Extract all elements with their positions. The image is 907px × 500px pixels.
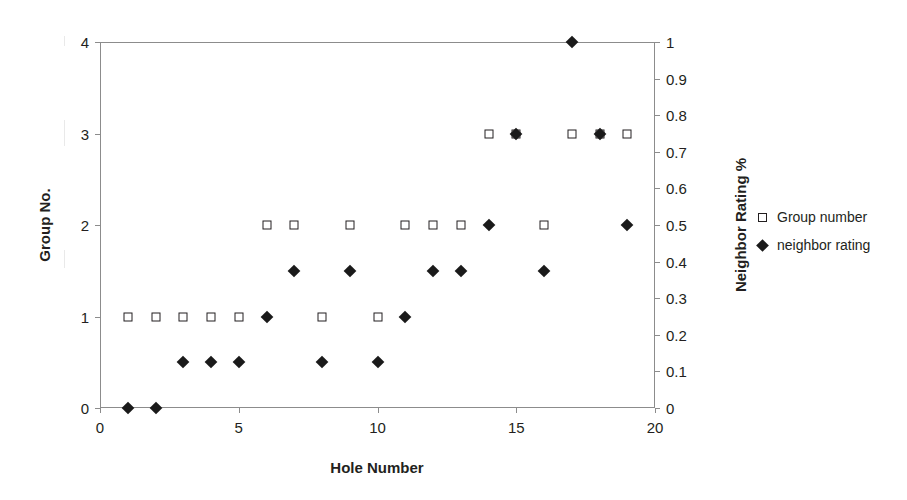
y-axis-right-tick-mark [655,42,660,43]
y-axis-right-tick-label: 0.4 [666,254,687,269]
data-point-group-number [484,129,493,138]
y-axis-right-tick-label: 0.2 [666,327,687,342]
y-axis-left-tick-label: 1 [81,309,89,324]
y-axis-right-tick-mark [655,298,660,299]
y-axis-right-tick-mark [655,335,660,336]
y-axis-right-tick-label: 1 [666,35,674,50]
y-axis-left-tick-label: 0 [81,401,89,416]
x-axis-tick-mark [516,408,517,413]
y-axis-left-tick-label: 4 [81,35,89,50]
data-point-group-number [290,221,299,230]
y-axis-right-tick-label: 0.7 [666,144,687,159]
data-point-group-number [429,221,438,230]
data-point-group-number [567,129,576,138]
data-point-group-number [207,312,216,321]
y-axis-right-tick-label: 0.5 [666,218,687,233]
data-point-group-number [262,221,271,230]
y-axis-right-tick-mark [655,188,660,189]
y-axis-right-tick-mark [655,262,660,263]
y-axis-left-title: Group No. [37,188,52,261]
data-point-group-number [234,312,243,321]
data-point-group-number [540,221,549,230]
x-axis-title: Hole Number [330,460,423,475]
scan-speckle [64,250,65,268]
data-point-group-number [345,221,354,230]
data-point-group-number [123,312,132,321]
scan-speckle [64,36,65,46]
x-axis-tick-label: 20 [647,420,664,435]
y-axis-right-tick-label: 0.8 [666,108,687,123]
data-point-group-number [151,312,160,321]
x-axis-tick-label: 10 [369,420,386,435]
y-axis-right-tick-label: 0.9 [666,71,687,86]
data-point-group-number [456,221,465,230]
x-axis-tick-label: 5 [235,420,243,435]
legend-label: neighbor rating [777,238,870,252]
y-axis-right-tick-mark [655,225,660,226]
data-point-group-number [179,312,188,321]
chart-legend: Group number neighbor rating [757,210,870,252]
y-axis-right-tick-label: 0 [666,401,674,416]
y-axis-left-tick-label: 2 [81,218,89,233]
y-axis-right-tick-mark [655,152,660,153]
open-square-icon [757,212,768,223]
y-axis-right-title: Neighbor Rating % [733,158,748,292]
legend-item-neighbor-rating[interactable]: neighbor rating [757,238,870,252]
y-axis-right-tick-mark [655,79,660,80]
plot-area [100,42,655,408]
x-axis-tick-label: 0 [96,420,104,435]
legend-item-group-number[interactable]: Group number [757,210,870,224]
x-axis-tick-mark [100,408,101,413]
scatter-chart: Group No. Neighbor Rating % Hole Number … [0,0,907,500]
y-axis-right-tick-mark [655,115,660,116]
filled-diamond-icon [757,240,768,251]
data-point-group-number [401,221,410,230]
x-axis-tick-label: 15 [508,420,525,435]
data-point-group-number [623,129,632,138]
x-axis-tick-mark [655,408,656,413]
y-axis-left-tick-mark [95,225,100,226]
y-axis-right-tick-label: 0.3 [666,291,687,306]
y-axis-left-tick-mark [95,42,100,43]
data-point-group-number [318,312,327,321]
y-axis-left-tick-mark [95,317,100,318]
scan-speckle [64,120,65,146]
y-axis-left-tick-label: 3 [81,126,89,141]
legend-label: Group number [777,210,867,224]
x-axis-tick-mark [239,408,240,413]
x-axis-tick-mark [378,408,379,413]
data-point-group-number [373,312,382,321]
y-axis-right-tick-mark [655,371,660,372]
y-axis-left-tick-mark [95,134,100,135]
y-axis-right-tick-label: 0.6 [666,181,687,196]
y-axis-right-tick-label: 0.1 [666,364,687,379]
